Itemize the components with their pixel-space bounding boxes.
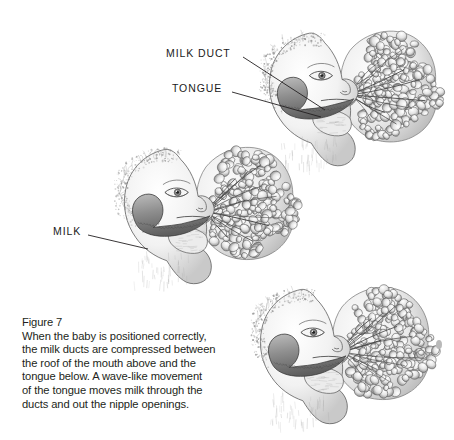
- infant-latched-breast-view-3-art: [240, 268, 436, 430]
- figure-caption-line: When the baby is positioned correctly,: [22, 330, 232, 344]
- callout-label-milk: MILK: [53, 225, 81, 237]
- illustration-infant-latched-breast-view-2: [104, 128, 300, 290]
- figure-caption-line: of the tongue moves milk through the: [22, 384, 232, 398]
- figure-caption-line: the milk ducts are compressed between: [22, 343, 232, 357]
- print-speck: [261, 355, 264, 358]
- figure-caption-title: Figure 7: [22, 316, 232, 330]
- figure-page: MILK DUCT TONGUE MILK Figure 7 When the …: [0, 0, 454, 440]
- figure-caption-line: the roof of the mouth above and the: [22, 357, 232, 371]
- callout-label-tongue: TONGUE: [172, 82, 222, 94]
- figure-caption-line: tongue below. A wave-like movement: [22, 370, 232, 384]
- infant-latched-breast-view-2-art: [104, 128, 300, 290]
- print-speck: [436, 340, 442, 349]
- callout-label-milk-duct: MILK DUCT: [166, 47, 231, 59]
- figure-caption: Figure 7 When the baby is positioned cor…: [22, 316, 232, 411]
- illustration-infant-latched-breast-view-3: [240, 268, 436, 430]
- figure-caption-line: ducts and out the nipple openings.: [22, 398, 232, 412]
